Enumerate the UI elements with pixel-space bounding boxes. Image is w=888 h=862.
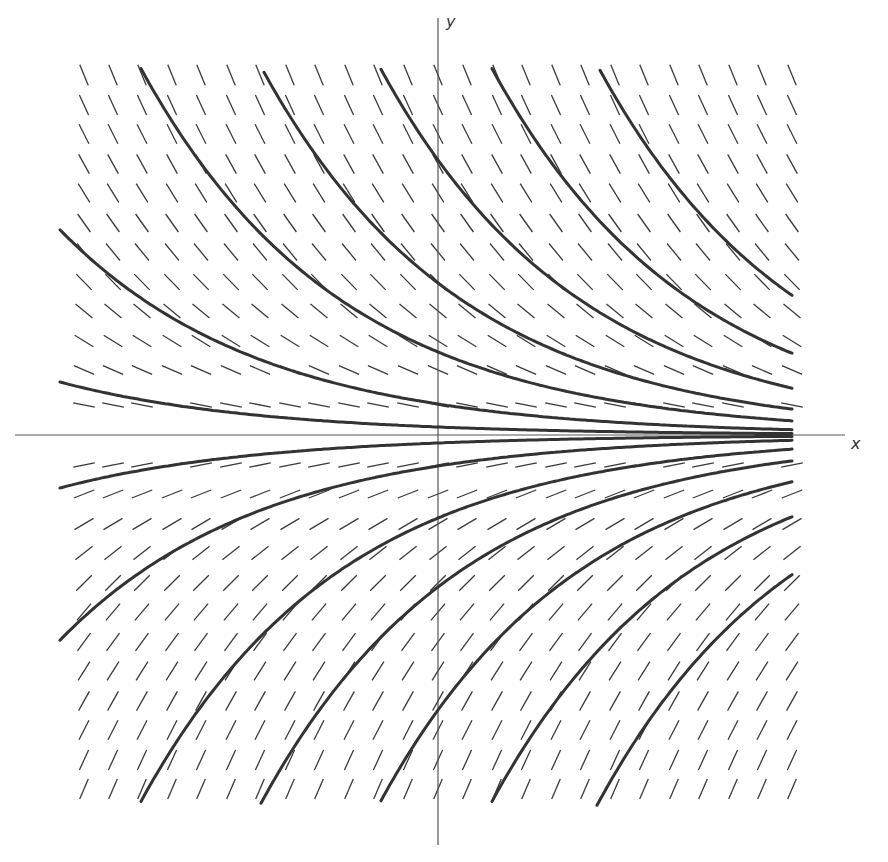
slope-segment — [724, 335, 743, 347]
slope-segment — [80, 65, 88, 85]
slope-segment — [663, 463, 685, 467]
slope-segment — [663, 403, 685, 407]
slope-segment — [462, 691, 473, 710]
direction-field-plot — [0, 0, 888, 862]
slope-segment — [220, 463, 242, 467]
slope-segment — [136, 662, 148, 681]
slope-segment — [696, 604, 710, 621]
slope-segment — [165, 604, 179, 621]
slope-segment — [696, 244, 710, 261]
slope-segment — [692, 463, 714, 467]
slope-segment — [131, 403, 153, 407]
slope-segment — [724, 518, 743, 529]
slope-segment — [725, 304, 742, 318]
slope-segment — [492, 95, 501, 115]
slope-segment — [373, 691, 384, 710]
slope-segment — [340, 546, 357, 560]
slope-segment — [167, 691, 178, 710]
slope-segment — [106, 604, 120, 621]
slope-segment — [606, 335, 625, 347]
slope-segment — [550, 633, 563, 651]
slope-segment — [403, 154, 414, 173]
slope-segment — [699, 779, 708, 799]
slope-segment — [785, 604, 799, 621]
slope-segment — [607, 274, 622, 290]
slope-segment — [286, 779, 295, 799]
slope-segment — [255, 720, 265, 740]
slope-segment — [578, 244, 592, 261]
slope-segment — [281, 518, 300, 529]
slope-segment — [196, 750, 205, 770]
slope-segment — [163, 335, 182, 347]
slope-segment — [167, 154, 178, 173]
slope-segment — [195, 214, 208, 232]
slope-segment — [137, 750, 146, 770]
slope-segment — [666, 304, 683, 318]
slope-segment — [728, 124, 738, 144]
slope-segment — [342, 244, 356, 261]
slope-segment — [576, 518, 595, 529]
slope-segment — [757, 750, 766, 770]
slope-segment — [167, 95, 176, 115]
slope-segment — [581, 65, 589, 85]
slope-segment — [576, 335, 595, 347]
slope-segment — [460, 604, 474, 621]
slope-segment — [635, 518, 654, 529]
slope-segment — [609, 662, 621, 681]
slope-segment — [162, 366, 182, 375]
slope-segment — [670, 779, 679, 799]
slope-segment — [315, 779, 324, 799]
slope-segment — [757, 691, 768, 710]
slope-segment — [581, 779, 590, 799]
slope-segment — [403, 691, 414, 710]
slope-segment — [398, 366, 418, 375]
slope-segment — [404, 779, 413, 799]
slope-segment — [344, 124, 354, 144]
slope-segment — [284, 662, 296, 681]
slope-segment — [520, 633, 533, 651]
slope-segment — [668, 214, 681, 232]
slope-segment — [367, 403, 389, 407]
slope-segment — [699, 65, 707, 85]
slope-segment — [279, 403, 301, 407]
slope-segment — [249, 463, 271, 467]
slope-segment — [370, 304, 387, 318]
slope-segment — [458, 546, 475, 560]
slope-segment — [254, 184, 266, 203]
slope-segment — [370, 274, 385, 290]
slope-segment — [250, 490, 270, 498]
slope-segment — [692, 403, 714, 407]
slope-segment — [462, 750, 471, 770]
slope-segment — [462, 95, 471, 115]
slope-segment — [462, 720, 472, 740]
slope-segment — [639, 154, 650, 173]
slope-segment — [640, 65, 648, 85]
slope-segment — [311, 304, 328, 318]
slope-segment — [518, 575, 534, 590]
slope-segment — [341, 274, 356, 290]
slope-segment — [137, 720, 147, 740]
slope-segment — [668, 662, 680, 681]
slope-segment — [373, 124, 383, 144]
slope-segment — [105, 304, 122, 318]
slope-segment — [76, 575, 92, 590]
slope-segment — [552, 779, 561, 799]
slope-segment — [134, 304, 151, 318]
slope-segment — [73, 403, 95, 407]
slope-segment — [517, 546, 534, 560]
slope-segment — [285, 124, 295, 144]
slope-segment — [253, 604, 267, 621]
slope-segment — [757, 95, 766, 115]
slope-segment — [193, 274, 208, 290]
slope-segment — [222, 546, 239, 560]
x-axis-label: x — [851, 434, 860, 453]
slope-segment — [486, 403, 508, 407]
slope-segment — [755, 244, 769, 261]
slope-segment — [634, 366, 654, 375]
slope-segment — [194, 244, 208, 261]
slope-segment — [402, 633, 415, 651]
slope-segment — [546, 490, 566, 498]
slope-segment — [314, 720, 324, 740]
slope-segment — [132, 490, 152, 498]
slope-segment — [341, 575, 357, 590]
